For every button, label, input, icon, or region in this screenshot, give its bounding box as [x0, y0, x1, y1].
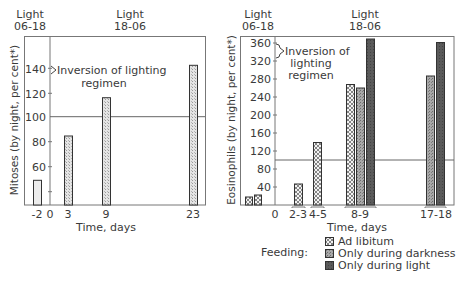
svg-text:200: 200 [250, 109, 271, 122]
legend-swatch-adlib [326, 238, 334, 246]
svg-text:4-5: 4-5 [309, 208, 327, 221]
inversion-annotation: Inversion of lighting regimen [51, 64, 167, 90]
legend-title: Feeding: [261, 246, 308, 259]
svg-text:280: 280 [250, 73, 271, 86]
x-axis-label: Time, days [75, 221, 136, 234]
y-ticks: 40 80 120 160 200 240 280 320 360 [250, 37, 277, 194]
header-light-hours: 18-06 [114, 20, 146, 33]
svg-text:120: 120 [25, 88, 46, 101]
svg-text:100: 100 [25, 111, 46, 124]
svg-text:320: 320 [250, 55, 271, 68]
svg-text:140: 140 [25, 63, 46, 76]
bar-light-8-9 [367, 39, 375, 205]
legend-swatch-darkness [326, 250, 334, 258]
svg-text:40: 40 [257, 181, 271, 194]
y-axis-label: Eosinophils (by night, per cent*) [225, 35, 237, 205]
svg-text:3: 3 [65, 208, 72, 221]
inversion-annotation: Inversion of lighting regimen [276, 44, 351, 82]
plot-frame [25, 37, 206, 206]
legend-label: Only during light [338, 259, 431, 272]
svg-text:9: 9 [103, 208, 110, 221]
legend: Feeding: Ad libitum Only during darkness… [261, 235, 456, 272]
svg-text:8-9: 8-9 [351, 208, 369, 221]
bar-day-23 [190, 65, 198, 205]
figure: Light 06-18 Light 18-06 60 80 100 120 14… [0, 0, 459, 282]
bar-day-3 [65, 136, 73, 205]
svg-text:2-3: 2-3 [289, 208, 307, 221]
svg-text:regimen: regimen [288, 69, 334, 82]
svg-text:-2: -2 [32, 208, 43, 221]
x-ticks: 0 2-3 4-5 8-9 17-18 [272, 208, 452, 221]
bar-adlib-2-3 [295, 184, 303, 205]
right-chart: Light 06-18 Light 18-06 40 80 120 160 20… [225, 8, 456, 272]
svg-text:160: 160 [250, 127, 271, 140]
svg-text:Inversion of lighting: Inversion of lighting [57, 64, 167, 77]
svg-text:80: 80 [32, 136, 46, 149]
svg-text:120: 120 [250, 145, 271, 158]
bar-adlib-pre1 [246, 197, 253, 205]
x-axis-label: Time, days [326, 221, 387, 234]
y-axis-label: Mitoses (by night, per cent*) [8, 45, 20, 195]
header-light-hours: 06-18 [14, 20, 46, 33]
svg-text:80: 80 [257, 163, 271, 176]
svg-text:60: 60 [32, 161, 46, 174]
svg-text:240: 240 [250, 91, 271, 104]
bar-adlib-4-5 [314, 143, 322, 206]
bar-day-minus2 [34, 180, 42, 205]
bar-day-9 [103, 98, 111, 205]
left-chart: Light 06-18 Light 18-06 60 80 100 120 14… [8, 8, 206, 234]
svg-text:23: 23 [186, 208, 200, 221]
bar-dark-17-18 [427, 76, 435, 205]
bar-dark-8-9 [357, 88, 365, 205]
x-ticks: -2 0 3 9 23 [32, 208, 200, 221]
svg-text:regimen: regimen [81, 77, 127, 90]
bar-adlib-pre2 [255, 195, 262, 205]
header-light-hours: 18-06 [349, 20, 381, 33]
legend-swatch-light [326, 262, 334, 270]
svg-text:360: 360 [250, 37, 271, 50]
y-ticks: 60 80 100 120 140 [25, 63, 52, 192]
svg-text:0: 0 [272, 208, 279, 221]
header-light-hours: 06-18 [242, 20, 274, 33]
bar-light-17-18 [437, 43, 445, 206]
svg-text:17-18: 17-18 [420, 208, 452, 221]
bar-adlib-8-9 [347, 85, 355, 206]
svg-text:0: 0 [47, 208, 54, 221]
